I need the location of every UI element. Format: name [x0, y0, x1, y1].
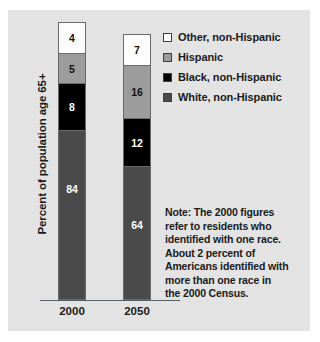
legend-item-black[interactable]: Black, non-Hispanic [163, 67, 308, 87]
bar-segment-other-2050[interactable]: 7 [124, 35, 150, 66]
stacked-bar-2000[interactable]: 4 5 8 84 [58, 22, 86, 300]
legend-label-other: Other, non-Hispanic [178, 31, 281, 43]
bar-segment-white-2050[interactable]: 64 [124, 167, 150, 299]
legend-item-hispanic[interactable]: Hispanic [163, 47, 308, 67]
plot-area: 4 5 8 84 7 16 12 64 [40, 22, 180, 301]
legend-swatch-white-icon [163, 93, 172, 102]
bar-value-other-2050: 7 [134, 44, 140, 56]
bar-segment-white-2000[interactable]: 84 [59, 131, 85, 299]
x-axis-line [40, 300, 180, 301]
bar-value-hispanic-2050: 16 [131, 86, 143, 98]
note-line: identified with one race. [165, 233, 313, 247]
note-line: the 2000 Census. [165, 287, 313, 301]
note-line: Americans identified with [165, 260, 313, 274]
x-tick-label-2000: 2000 [42, 305, 102, 317]
legend-item-other[interactable]: Other, non-Hispanic [163, 27, 308, 47]
note-line: refer to residents who [165, 220, 313, 234]
bar-segment-hispanic-2050[interactable]: 16 [124, 66, 150, 120]
note-line: About 2 percent of [165, 247, 313, 261]
bar-segment-black-2050[interactable]: 12 [124, 119, 150, 167]
bar-segment-hispanic-2000[interactable]: 5 [59, 54, 85, 85]
bar-value-white-2050: 64 [124, 219, 150, 231]
legend-label-black: Black, non-Hispanic [178, 71, 281, 83]
bar-value-other-2000: 4 [69, 32, 75, 44]
legend-label-white: White, non-Hispanic [178, 91, 282, 103]
note-line: Note: The 2000 figures [165, 206, 313, 220]
chart-panel: Percent of population age 65+ 4 5 8 84 7 [8, 10, 310, 331]
legend-item-white[interactable]: White, non-Hispanic [163, 87, 308, 107]
bar-value-white-2000: 84 [59, 183, 85, 195]
bar-segment-other-2000[interactable]: 4 [59, 23, 85, 54]
chart-legend: Other, non-Hispanic Hispanic Black, non-… [163, 27, 308, 107]
bar-value-hispanic-2000: 5 [69, 63, 75, 75]
bar-value-black-2000: 8 [69, 101, 75, 113]
stacked-bar-2050[interactable]: 7 16 12 64 [123, 34, 151, 300]
legend-swatch-hispanic-icon [163, 53, 172, 62]
x-tick-label-2050: 2050 [107, 305, 167, 317]
legend-swatch-other-icon [163, 33, 172, 42]
legend-label-hispanic: Hispanic [178, 51, 223, 63]
note-line: more than one race in [165, 274, 313, 288]
bar-segment-black-2000[interactable]: 8 [59, 84, 85, 131]
legend-swatch-black-icon [163, 73, 172, 82]
chart-note: Note: The 2000 figures refer to resident… [165, 206, 313, 301]
bar-value-black-2050: 12 [131, 137, 143, 149]
